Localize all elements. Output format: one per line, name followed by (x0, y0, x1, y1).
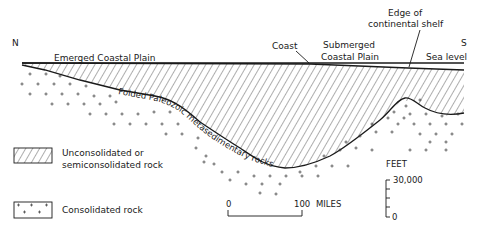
sea-level-label: Sea level (426, 52, 467, 62)
coast-arrow (296, 51, 309, 63)
shelf-edge-arrow (409, 30, 420, 67)
vertical-scale-bar: FEET 30,000 0 (386, 159, 423, 222)
legend-hatched-line2: semiconsolidated rock (62, 160, 164, 170)
horizontal-scale-bar: 0 100 MILES (226, 199, 341, 216)
h-scale-end: 100 (294, 199, 310, 209)
v-scale-bottom: 0 (392, 212, 397, 222)
coast-label: Coast (272, 41, 298, 51)
geologic-cross-section: N S Emerged Coastal Plain Coast Submerge… (0, 0, 478, 233)
emerged-coastal-plain-label: Emerged Coastal Plain (54, 53, 155, 63)
legend: Unconsolidated or semiconsolidated rock … (14, 148, 164, 218)
unconsolidated-wedge (0, 0, 478, 233)
shelf-edge-label-line1: Edge of (388, 8, 423, 18)
h-scale-start: 0 (226, 199, 231, 209)
legend-hatched-line1: Unconsolidated or (62, 148, 144, 158)
submerged-label-line2: Coastal Plain (321, 52, 379, 62)
shelf-edge-label-line2: continental shelf (368, 19, 444, 29)
north-label: N (12, 38, 19, 48)
h-scale-unit: MILES (316, 199, 341, 209)
v-scale-unit: FEET (386, 159, 408, 169)
legend-crosses-label: Consolidated rock (62, 205, 144, 215)
submerged-label-line1: Submerged (323, 40, 375, 50)
legend-swatch-hatched (14, 148, 52, 163)
south-label: S (461, 38, 467, 48)
v-scale-top: 30,000 (393, 175, 423, 185)
